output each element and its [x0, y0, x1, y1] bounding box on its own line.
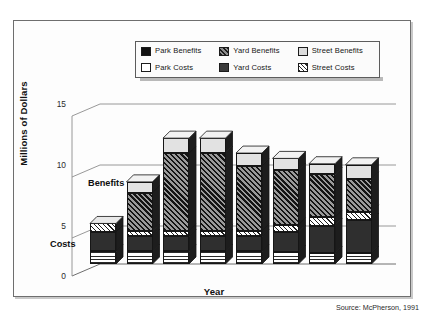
legend-item-street-costs: Street Costs — [298, 63, 376, 72]
legend-label-park-costs: Park Costs — [155, 64, 193, 72]
legend-swatch-yard-costs — [219, 63, 229, 72]
legend-label-street-costs: Street Costs — [312, 64, 355, 72]
legend-item-park-costs: Park Costs — [141, 63, 219, 72]
legend-swatch-street-costs — [298, 63, 308, 72]
legend-label-street-benefits: Street Benefits — [312, 47, 363, 55]
bar-3d-2028 — [78, 92, 396, 276]
legend-swatch-park-costs — [141, 63, 151, 72]
plot-area: 15 10 5 0 199319982003200820132018202320… — [78, 92, 396, 276]
y-axis-title: Millions of Dollars — [18, 54, 29, 194]
source-note: Source: McPherson, 1991 — [336, 303, 419, 312]
y-tick-5: 5 — [44, 221, 66, 231]
legend-swatch-yard-benefits — [219, 47, 229, 56]
y-tick-0: 0 — [44, 271, 66, 281]
legend-swatch-street-benefits — [298, 47, 308, 56]
chart-legend: Park Benefits Yard Benefits Street Benef… — [135, 41, 380, 78]
legend-label-yard-costs: Yard Costs — [233, 64, 271, 72]
legend-swatch-park-benefits — [141, 47, 151, 56]
x-axis-title: Year — [0, 286, 428, 297]
legend-label-park-benefits: Park Benefits — [155, 47, 201, 55]
bar-group — [78, 92, 396, 276]
legend-label-yard-benefits: Yard Benefits — [233, 47, 279, 55]
chart-figure: Park Benefits Yard Benefits Street Benef… — [0, 0, 428, 322]
legend-item-yard-benefits: Yard Benefits — [219, 47, 297, 56]
legend-item-street-benefits: Street Benefits — [298, 47, 376, 56]
legend-item-park-benefits: Park Benefits — [141, 47, 219, 56]
y-tick-15: 15 — [44, 99, 66, 109]
annotation-costs: Costs — [50, 239, 76, 249]
y-tick-10: 10 — [44, 160, 66, 170]
legend-item-yard-costs: Yard Costs — [219, 63, 297, 72]
annotation-benefits: Benefits — [88, 178, 124, 188]
